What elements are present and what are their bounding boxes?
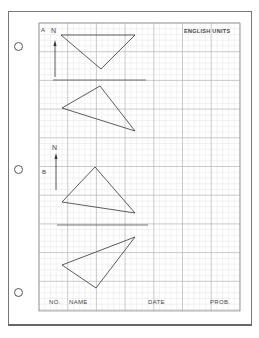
title-date-label: DATE <box>148 299 165 305</box>
triangle-b2 <box>62 237 135 288</box>
triangle-a2 <box>62 86 135 131</box>
north-arrow-b-icon <box>55 153 58 190</box>
north-b-label: N <box>52 144 57 151</box>
units-label: ENGLISH UNITS <box>184 28 230 34</box>
north-a-label: N <box>51 27 56 34</box>
title-prob-label: PROB. <box>210 299 230 305</box>
section-b-label: B <box>42 169 46 175</box>
triangle-b1 <box>62 167 135 213</box>
section-a-label: A <box>41 27 45 33</box>
title-no-label: NO. <box>49 299 61 305</box>
title-name-label: NAME <box>69 299 88 305</box>
grid-drawing <box>0 0 259 338</box>
